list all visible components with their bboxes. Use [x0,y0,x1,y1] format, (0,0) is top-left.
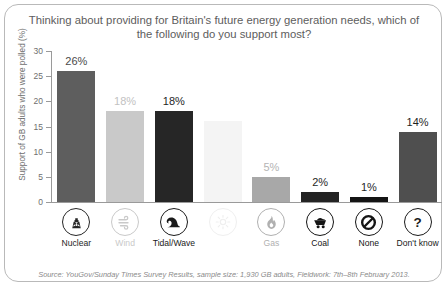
bar-wind [106,111,144,202]
category-don-t-know: ?Don't know [388,208,448,248]
y-tick-mark [46,127,51,128]
bar-value-label: 26% [46,55,106,67]
bar-none [350,197,388,202]
chart-title: Thinking about providing for Britain's f… [23,13,425,41]
wave-icon [160,208,188,236]
y-tick-mark [46,101,51,102]
x-axis-line [51,202,442,203]
category-label: Tidal/Wave [144,238,204,248]
y-tick-label: 5 [17,172,43,182]
y-tick-label: 0 [17,197,43,207]
prohibition-icon [355,208,383,236]
chart-card: Thinking about providing for Britain's f… [4,4,442,282]
nuclear-icon [62,208,90,236]
bar-value-label: 1% [339,181,399,193]
bar-gas [252,177,290,202]
bar-coal [301,192,339,202]
bar-don-t-know [399,132,437,202]
bar-value-label: 18% [144,95,204,107]
y-tick-label: 10 [17,147,43,157]
y-tick-label: 30 [17,46,43,56]
bar-value-label: 5% [241,161,301,173]
source-note: Source: YouGov/Sunday Times Survey Resul… [5,270,443,279]
y-tick-mark [46,177,51,178]
bar-solar [204,121,242,202]
y-tick-label: 15 [17,122,43,132]
question-mark-icon: ? [404,208,432,236]
category-label: Don't know [388,238,448,248]
y-tick-label: 25 [17,71,43,81]
y-tick-mark [46,76,51,77]
flame-icon [257,208,285,236]
y-tick-mark [46,152,51,153]
bar-value-label: 14% [388,116,448,128]
plot-area: 26%18%18%5%2%1%14% [52,49,442,202]
bar-nuclear [57,71,95,202]
y-tick-label: 20 [17,96,43,106]
sun-icon [209,208,237,236]
wind-icon [111,208,139,236]
y-tick-mark [46,51,51,52]
svg-text:?: ? [414,215,422,230]
y-tick-mark [46,202,51,203]
bar-tidal-wave [155,111,193,202]
coal-cart-icon [306,208,334,236]
category-icon-row: NuclearWindTidal/WaveGasCoalNone?Don't k… [52,208,442,254]
